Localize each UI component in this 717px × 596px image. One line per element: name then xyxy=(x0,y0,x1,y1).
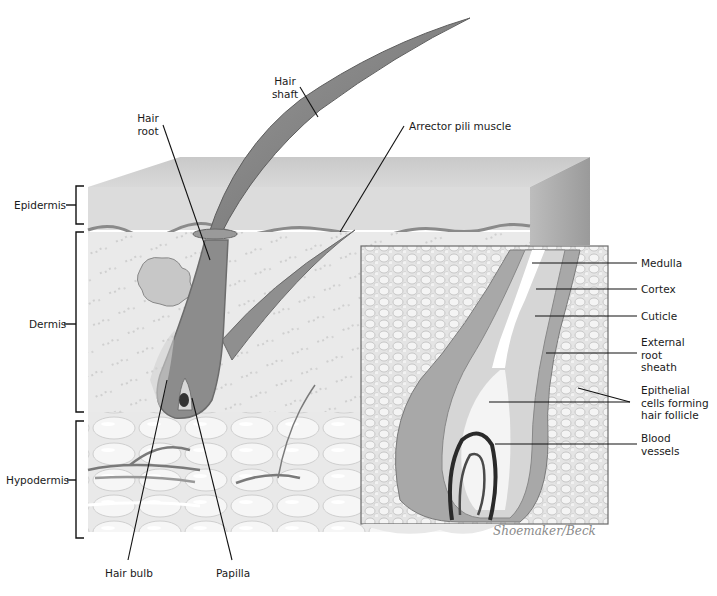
label-external-root-sheath: External root sheath xyxy=(641,336,685,374)
epidermis-layer xyxy=(88,187,530,230)
label-blood-vessels: Blood vessels xyxy=(641,432,679,457)
label-dermis: Dermis xyxy=(29,318,66,331)
label-medulla: Medulla xyxy=(641,257,682,270)
label-hair-shaft: Hair shaft xyxy=(268,75,302,100)
label-hair-bulb: Hair bulb xyxy=(105,567,153,580)
artist-signature: Shoemaker/Beck xyxy=(493,524,596,538)
skin-top-surface xyxy=(88,157,590,187)
label-cuticle: Cuticle xyxy=(641,310,677,323)
label-hypodermis: Hypodermis xyxy=(6,474,69,487)
skin-illustration xyxy=(0,0,717,596)
label-epithelial-cells: Epithelial cells forming hair follicle xyxy=(641,384,709,422)
label-cortex: Cortex xyxy=(641,283,676,296)
label-hair-root: Hair root xyxy=(133,112,163,137)
label-papilla: Papilla xyxy=(216,567,250,580)
label-epidermis: Epidermis xyxy=(14,199,66,212)
label-arrector-pili-muscle: Arrector pili muscle xyxy=(409,120,511,133)
hair-follicle-diagram: Epidermis Dermis Hypodermis Hair shaft H… xyxy=(0,0,717,596)
